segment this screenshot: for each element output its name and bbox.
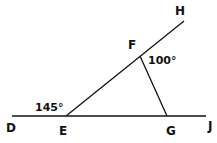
label-e: E bbox=[59, 124, 67, 138]
line-eh bbox=[66, 21, 184, 116]
diagram-svg: H F 100° 145° D E G J bbox=[0, 0, 217, 143]
angle-label-145: 145° bbox=[35, 101, 63, 114]
angle-label-100: 100° bbox=[148, 54, 176, 67]
label-g: G bbox=[166, 124, 176, 138]
geometry-diagram: H F 100° 145° D E G J bbox=[0, 0, 217, 143]
label-h: H bbox=[175, 4, 185, 18]
label-f: F bbox=[128, 38, 136, 52]
label-j: J bbox=[207, 119, 212, 133]
label-d: D bbox=[6, 121, 16, 135]
